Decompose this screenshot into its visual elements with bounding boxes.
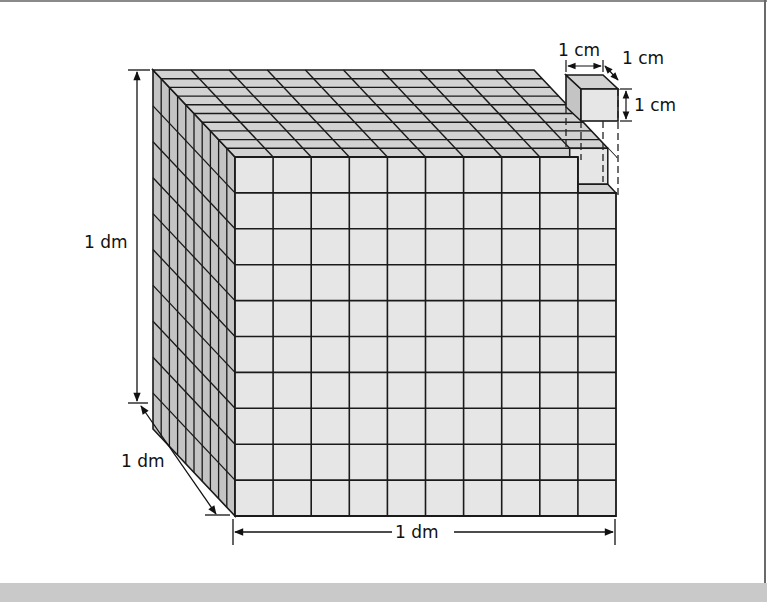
diagram-frame: 1 dm 1 dm 1 dm 1 cm 1 cm xyxy=(0,0,767,602)
cube-front-face xyxy=(235,157,616,516)
unit-width-label: 1 cm xyxy=(558,40,600,60)
unit-width-dimension xyxy=(566,60,603,72)
unit-height-label: 1 cm xyxy=(634,95,676,115)
width-label: 1 dm xyxy=(395,522,439,542)
cube-diagram: 1 dm 1 dm 1 dm 1 cm 1 cm xyxy=(0,0,767,602)
height-label: 1 dm xyxy=(84,232,128,252)
cube-top-face xyxy=(153,70,616,157)
unit-height-dimension xyxy=(620,89,632,121)
height-dimension xyxy=(128,70,150,403)
unit-depth-label: 1 cm xyxy=(622,48,664,68)
unit-cube xyxy=(566,75,618,121)
depth-label: 1 dm xyxy=(121,451,165,471)
